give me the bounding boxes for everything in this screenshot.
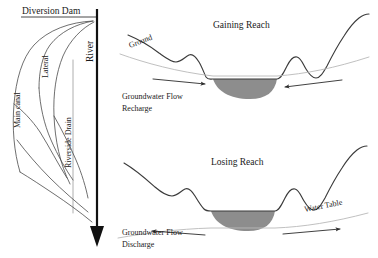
riverside-drain-label: Riverside Drain — [64, 117, 73, 168]
canal-branch-4 — [20, 172, 92, 222]
river-flow-arrowhead — [90, 226, 104, 247]
losing-reach-panel: Losing Reach Water Table Groundwater Flo… — [118, 146, 368, 249]
river-label: River — [85, 40, 95, 62]
losing-reach-right-flow-arrow — [283, 229, 340, 234]
groundwater-surface-water-interaction-figure: Diversion Dam River Riverside Drain Main… — [0, 0, 378, 258]
diversion-dam-label: Diversion Dam — [22, 6, 81, 16]
gaining-reach-flow-label-line2: Recharge — [122, 104, 153, 113]
gaining-reach-panel: Gaining Reach Ground Groundwater Flow Re… — [120, 14, 369, 113]
losing-reach-flow-label-line1: Groundwater Flow — [122, 228, 183, 237]
ground-label: Ground — [127, 33, 153, 50]
gaining-reach-channel-fill — [213, 79, 277, 99]
gaining-reach-flow-label-line1: Groundwater Flow — [122, 92, 183, 101]
canal-branch-5 — [17, 140, 88, 212]
gaining-reach-left-flow-arrow — [153, 79, 205, 84]
losing-reach-title: Losing Reach — [211, 157, 264, 167]
lateral-label: Lateral — [41, 55, 50, 78]
gaining-reach-title: Gaining Reach — [213, 20, 270, 30]
losing-reach-flow-label-line2: Discharge — [122, 240, 155, 249]
gaining-reach-right-flow-arrow — [285, 80, 342, 87]
left-panel-canal-network: Diversion Dam River Riverside Drain Main… — [13, 6, 104, 247]
main-canal-curve — [13, 21, 93, 172]
